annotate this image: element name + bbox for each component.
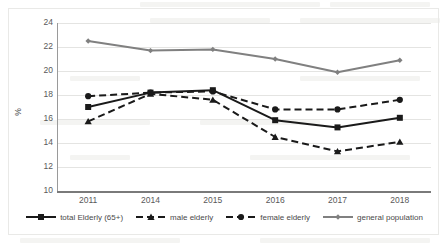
data-point-marker — [397, 58, 402, 63]
x-axis-ticks: 201120142015201620172018 — [57, 195, 431, 209]
plot-wrapper: % 2422201816141210 201120142015201620172… — [9, 9, 440, 236]
legend-label: total Elderly (65+) — [60, 213, 123, 222]
y-tick-label: 10 — [31, 186, 53, 195]
data-point-marker — [85, 93, 91, 99]
data-point-marker — [210, 47, 215, 52]
data-point-marker — [85, 38, 90, 43]
x-tick-label: 2016 — [266, 195, 285, 205]
legend-swatch-circle-icon — [226, 212, 256, 222]
data-point-marker — [147, 90, 153, 96]
data-point-marker — [334, 106, 340, 112]
legend-item-male-elderly[interactable]: male elderly — [136, 212, 213, 222]
y-tick-label: 12 — [31, 162, 53, 171]
series-line — [88, 94, 400, 152]
legend-item-total-elderly-65-[interactable]: total Elderly (65+) — [26, 212, 123, 222]
data-point-marker — [272, 56, 277, 61]
series-line — [88, 41, 400, 72]
y-tick-label: 14 — [31, 138, 53, 147]
data-point-marker — [238, 214, 244, 220]
data-point-marker — [272, 106, 278, 112]
y-tick-label: 18 — [31, 90, 53, 99]
y-tick-label: 20 — [31, 66, 53, 75]
x-tick-label: 2011 — [79, 195, 97, 205]
x-axis-line — [57, 191, 431, 193]
legend-label: general population — [357, 213, 423, 222]
data-point-marker — [335, 70, 340, 75]
series-female-elderly — [85, 88, 403, 112]
x-tick-label: 2015 — [203, 195, 222, 205]
legend-swatch-triangle-icon — [136, 212, 166, 222]
data-point-marker — [210, 88, 216, 94]
data-point-marker — [272, 117, 278, 123]
x-tick-label: 2014 — [141, 195, 160, 205]
legend-swatch-diamond-icon — [323, 212, 353, 222]
data-point-marker — [209, 96, 216, 102]
data-point-marker — [38, 214, 44, 220]
y-tick-label: 24 — [31, 18, 53, 27]
legend-swatch-square-icon — [26, 212, 56, 222]
legend-label: male elderly — [170, 213, 213, 222]
chart-figure: % 2422201816141210 201120142015201620172… — [8, 8, 439, 235]
legend-label: female elderly — [260, 213, 310, 222]
data-point-marker — [148, 48, 153, 53]
series-plot — [57, 23, 431, 191]
series-general-population — [85, 38, 402, 75]
series-line — [88, 90, 400, 127]
plot-area — [57, 23, 431, 191]
x-tick-label: 2017 — [328, 195, 347, 205]
data-point-marker — [335, 214, 340, 219]
y-axis-ticks: 2422201816141210 — [25, 9, 53, 236]
data-point-marker — [397, 115, 403, 121]
y-tick-label: 22 — [31, 42, 53, 51]
data-point-marker — [396, 138, 403, 144]
data-point-marker — [397, 97, 403, 103]
data-point-marker — [85, 104, 91, 110]
chart-legend: total Elderly (65+)male elderlyfemale el… — [9, 212, 440, 222]
y-axis-title: % — [13, 105, 23, 119]
legend-item-general-population[interactable]: general population — [323, 212, 423, 222]
data-point-marker — [335, 124, 341, 130]
legend-item-female-elderly[interactable]: female elderly — [226, 212, 310, 222]
y-tick-label: 16 — [31, 114, 53, 123]
x-tick-label: 2018 — [390, 195, 409, 205]
series-line — [88, 91, 400, 109]
